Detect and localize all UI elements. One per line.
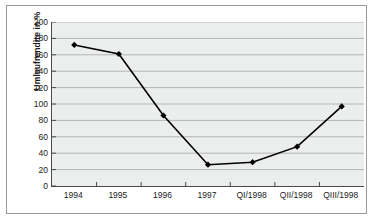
x-tick-label: QIII/1998 [323, 190, 358, 200]
x-tick-label: 1994 [64, 190, 83, 200]
x-tick-label: 1996 [153, 190, 172, 200]
x-tick-label: 1995 [108, 190, 127, 200]
plot-svg [52, 22, 364, 186]
series-line [74, 45, 341, 165]
y-tick-label: 40 [39, 148, 48, 158]
y-axis-ticks [52, 22, 56, 186]
x-tick-label: 1997 [198, 190, 217, 200]
series-markers [71, 42, 345, 168]
x-tick-label: QI/1998 [236, 190, 266, 200]
y-tick-label: 20 [39, 165, 48, 175]
gridlines [52, 22, 364, 170]
y-tick-label: 60 [39, 132, 48, 142]
chart-figure: Umlaufrendite in % 020406080100120140160… [0, 0, 373, 220]
x-axis-tick-labels: 1994199519961997QI/1998QII/1998QIII/1998 [51, 190, 364, 206]
y-tick-label: 180 [34, 33, 48, 43]
y-tick-label: 0 [43, 181, 48, 191]
y-tick-label: 100 [34, 99, 48, 109]
y-axis-tick-labels: 020406080100120140160180200 [22, 17, 48, 187]
y-tick-label: 160 [34, 50, 48, 60]
x-tick-label: QII/1998 [280, 190, 313, 200]
y-tick-label: 80 [39, 115, 48, 125]
data-point-marker [249, 159, 255, 165]
y-tick-label: 140 [34, 66, 48, 76]
y-tick-label: 200 [34, 17, 48, 27]
data-point-marker [71, 42, 77, 48]
x-axis-ticks [97, 182, 320, 186]
plot-area [51, 22, 364, 187]
y-tick-label: 120 [34, 83, 48, 93]
